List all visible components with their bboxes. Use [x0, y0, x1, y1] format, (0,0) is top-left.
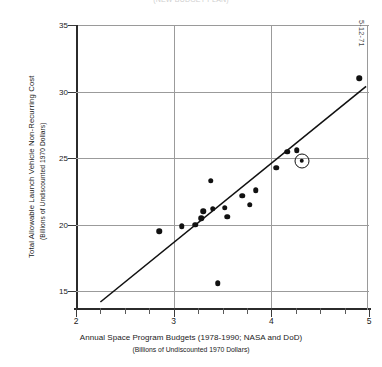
y-axis-tick-labels: 1520253035	[44, 0, 68, 367]
data-point	[210, 206, 216, 212]
y-tick-label: 25	[46, 154, 68, 163]
y-tick-label: 30	[46, 87, 68, 96]
data-point	[200, 209, 206, 215]
data-point	[179, 223, 185, 229]
data-point	[192, 222, 198, 228]
x-tick-label: 4	[269, 316, 274, 326]
data-point-highlighted	[299, 159, 304, 164]
data-point	[253, 187, 259, 193]
y-tick	[68, 92, 76, 93]
data-point	[198, 215, 204, 221]
x-axis-label: Annual Space Program Budgets (1978-1990;…	[0, 333, 382, 342]
x-tick-label: 5	[367, 316, 372, 326]
data-point	[284, 149, 290, 155]
scatter-plot-area	[76, 25, 369, 310]
x-axis-label-units: (Billions of Undiscounted 1970 Dollars)	[0, 346, 382, 353]
data-point	[208, 178, 214, 184]
data-point	[239, 193, 245, 199]
data-point	[294, 147, 300, 153]
data-point	[225, 214, 231, 220]
y-tick-label: 35	[46, 21, 68, 30]
y-axis-label: Total Allowable Launch Vehicle Non-Recur…	[27, 75, 36, 258]
x-tick-label: 3	[171, 316, 176, 326]
y-tick	[68, 225, 76, 226]
regression-fit-line	[76, 25, 369, 310]
date-stamp: 5-12-71	[357, 20, 366, 47]
y-tick	[68, 25, 76, 26]
x-tick-label: 2	[74, 316, 79, 326]
y-tick-label: 15	[46, 287, 68, 296]
y-tick	[68, 158, 76, 159]
data-point	[356, 76, 362, 82]
data-point	[156, 229, 162, 235]
y-tick	[68, 291, 76, 292]
data-point	[222, 205, 228, 211]
data-point	[247, 202, 253, 208]
data-point	[215, 281, 221, 287]
y-axis-label-units: (Billions of Undiscounted 1970 Dollars)	[39, 122, 46, 240]
y-tick-label: 20	[46, 220, 68, 229]
data-point	[273, 165, 279, 171]
